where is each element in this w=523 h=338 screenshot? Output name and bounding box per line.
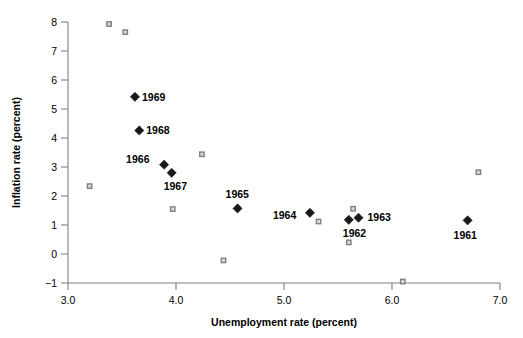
y-tick-label: 4 — [51, 132, 57, 144]
diamond-data-point — [135, 126, 144, 135]
data-point-label: 1967 — [164, 180, 188, 192]
diamond-data-point — [463, 216, 472, 225]
y-tick-label: 2 — [51, 190, 57, 202]
diamond-data-point — [305, 208, 314, 217]
x-tick-label: 3.0 — [61, 294, 76, 306]
y-tick-label: 6 — [51, 74, 57, 86]
y-tick-label: 7 — [51, 45, 57, 57]
data-point-label: 1963 — [368, 211, 392, 223]
y-tick-label: 1 — [51, 219, 57, 231]
square-data-point — [171, 207, 175, 211]
diamond-data-point — [167, 168, 176, 177]
labeled-point-group: 196919681966196719651964196319621961 — [126, 91, 477, 242]
y-axis-title: Inflation rate (percent) — [10, 97, 22, 208]
square-data-point — [107, 22, 111, 26]
square-data-point — [347, 240, 351, 244]
data-point-label: 1968 — [146, 124, 170, 136]
diamond-data-point — [354, 213, 363, 222]
x-tick-label: 4.0 — [169, 294, 184, 306]
y-tick-label: 5 — [51, 103, 57, 115]
y-tick-label: −1 — [45, 277, 57, 289]
diamond-data-point — [160, 160, 169, 169]
data-point-label: 1961 — [454, 229, 478, 241]
scatter-chart: 876543210−13.04.05.06.07.0Unemployment r… — [0, 0, 523, 338]
chart-canvas: 876543210−13.04.05.06.07.0Unemployment r… — [0, 0, 523, 338]
x-axis-title: Unemployment rate (percent) — [211, 316, 357, 328]
diamond-data-point — [130, 92, 139, 101]
square-data-point — [316, 219, 320, 223]
square-data-point — [221, 258, 225, 262]
square-data-point — [123, 30, 127, 34]
square-data-point — [401, 279, 405, 283]
square-data-point — [200, 152, 204, 156]
data-point-label: 1965 — [226, 188, 250, 200]
diamond-data-point — [344, 215, 353, 224]
square-data-point — [351, 207, 355, 211]
y-tick-label: 3 — [51, 161, 57, 173]
x-tick-label: 5.0 — [277, 294, 292, 306]
square-data-point — [476, 170, 480, 174]
data-point-label: 1969 — [142, 91, 166, 103]
square-data-point — [87, 184, 91, 188]
data-point-label: 1962 — [343, 227, 367, 239]
y-tick-label: 8 — [51, 16, 57, 28]
data-point-label: 1966 — [126, 153, 150, 165]
data-point-label: 1964 — [273, 209, 297, 221]
x-tick-label: 6.0 — [385, 294, 400, 306]
y-tick-label: 0 — [51, 248, 57, 260]
diamond-data-point — [233, 204, 242, 213]
x-tick-label: 7.0 — [493, 294, 508, 306]
